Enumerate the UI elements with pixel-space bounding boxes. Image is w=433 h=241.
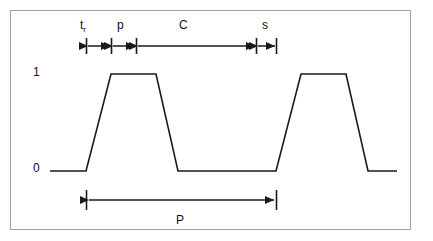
- label-plateau: p: [117, 19, 124, 31]
- y-axis-label-high: 1: [33, 66, 40, 78]
- label-rise-time: tr: [80, 19, 86, 34]
- y-axis-label-low: 0: [33, 162, 40, 174]
- pulse-waveform-trace: [50, 74, 397, 171]
- label-coast: C: [179, 19, 188, 31]
- label-period: P: [176, 214, 184, 226]
- waveform-canvas: [0, 0, 433, 241]
- label-settle: s: [262, 19, 268, 31]
- pulse-timing-figure: tr p C s 1 0 P: [0, 0, 433, 241]
- label-rise-time-subscript: r: [83, 25, 86, 34]
